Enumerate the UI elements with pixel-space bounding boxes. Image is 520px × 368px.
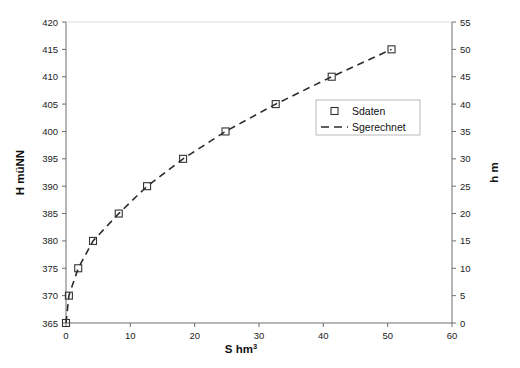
- chart-legend[interactable]: SdatenSgerechnet: [316, 100, 420, 135]
- y-axis-right-title: h m: [488, 162, 500, 182]
- y-tick-label-right: 55: [460, 17, 471, 28]
- y-tick-label-right: 25: [460, 181, 471, 192]
- x-tick-label: 0: [63, 330, 68, 341]
- y-tick-label-right: 40: [460, 99, 471, 110]
- y-tick-label-right: 0: [460, 318, 465, 329]
- chart-container: 0102030405060365370375380385390395400405…: [0, 0, 520, 368]
- chart-background: [0, 0, 520, 368]
- y-tick-label-right: 45: [460, 71, 471, 82]
- legend-label-1: Sgerechnet: [352, 121, 406, 133]
- y-tick-label-left: 415: [42, 44, 58, 55]
- x-tick-label: 20: [189, 330, 200, 341]
- chart-plot: 0102030405060365370375380385390395400405…: [0, 0, 520, 368]
- y-tick-label-left: 400: [42, 126, 58, 137]
- y-tick-label-left: 375: [42, 263, 58, 274]
- y-tick-label-right: 20: [460, 208, 471, 219]
- y-tick-label-right: 5: [460, 290, 465, 301]
- y-tick-label-left: 405: [42, 99, 58, 110]
- y-tick-label-right: 15: [460, 235, 471, 246]
- x-tick-label: 30: [254, 330, 265, 341]
- y-tick-label-right: 10: [460, 263, 471, 274]
- y-tick-label-left: 420: [42, 17, 58, 28]
- x-axis-title: S hm3: [225, 342, 257, 355]
- y-tick-label-left: 370: [42, 290, 58, 301]
- y-tick-label-left: 390: [42, 181, 58, 192]
- x-tick-label: 50: [382, 330, 393, 341]
- y-tick-label-left: 410: [42, 71, 58, 82]
- y-tick-label-right: 30: [460, 153, 471, 164]
- x-tick-label: 10: [125, 330, 136, 341]
- y-tick-label-right: 35: [460, 126, 471, 137]
- x-tick-label: 60: [447, 330, 458, 341]
- y-tick-label-left: 385: [42, 208, 58, 219]
- y-tick-label-left: 380: [42, 235, 58, 246]
- y-tick-label-right: 50: [460, 44, 471, 55]
- y-axis-left-title: H müNN: [14, 150, 26, 195]
- legend-label-0: Sdaten: [352, 105, 385, 117]
- y-tick-label-left: 365: [42, 318, 58, 329]
- y-tick-label-left: 395: [42, 153, 58, 164]
- x-tick-label: 40: [318, 330, 329, 341]
